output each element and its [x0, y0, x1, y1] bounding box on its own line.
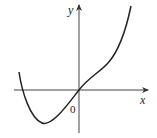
function-graph: y x 0 — [0, 0, 157, 138]
x-axis-label: x — [139, 93, 146, 107]
origin-label: 0 — [70, 103, 76, 115]
y-axis-label: y — [67, 3, 74, 17]
